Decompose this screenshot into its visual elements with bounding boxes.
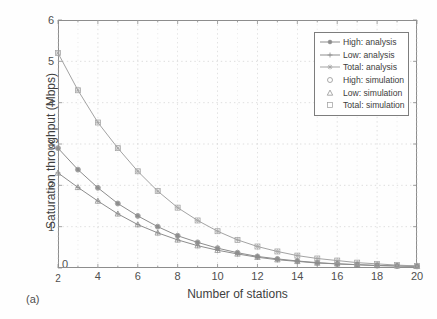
legend-label: High: simulation [343, 74, 404, 86]
legend-marker-plus-icon [317, 49, 343, 61]
legend-item: High: simulation [317, 74, 406, 87]
x-tick-label: 4 [95, 270, 101, 282]
legend-marker-open-circle-icon [317, 74, 343, 86]
x-tick-label: 10 [211, 270, 223, 282]
y-tick-label: 3 [48, 138, 54, 150]
y-tick-label: 4 [48, 97, 54, 109]
x-tick-label: 8 [175, 270, 181, 282]
legend-marker-filled-circle-icon [317, 36, 343, 48]
legend-marker-open-triangle-icon [317, 87, 343, 99]
subfigure-label: (a) [26, 293, 39, 305]
y-tick-label: 5 [48, 55, 54, 67]
x-tick-label: 20 [411, 270, 423, 282]
figure-panel-a: Saturation throughput (Mbps) 0123456 246… [0, 0, 437, 319]
y-tick-label: 6 [48, 14, 54, 26]
x-tick-label: 14 [291, 270, 303, 282]
legend-item: High: analysis [317, 36, 406, 49]
x-tick-label: 2 [55, 273, 61, 284]
legend-label: Low: analysis [343, 49, 395, 61]
legend-label: Low: simulation [343, 87, 402, 99]
legend-marker-star-icon [317, 61, 343, 73]
y-tick-label: 2 [48, 179, 54, 191]
x-tick-label: 18 [371, 270, 383, 282]
legend-item: Low: analysis [317, 49, 406, 62]
legend-item: Total: analysis [317, 61, 406, 74]
y-axis-title-wrap: Saturation throughput (Mbps) [14, 0, 30, 319]
legend-marker-open-square-icon [317, 99, 343, 111]
y-tick-label: 1 [48, 221, 54, 233]
legend-label: High: analysis [343, 36, 397, 48]
legend-item: Low: simulation [317, 86, 406, 99]
legend-item: Total: simulation [317, 99, 406, 112]
legend-label: Total: analysis [343, 61, 397, 73]
x-axis-title: Number of stations [58, 287, 417, 301]
y-axis-tick-labels: 0123456 [36, 0, 54, 319]
x-tick-label: 12 [251, 270, 263, 282]
chart-legend: High: analysisLow: analysisTotal: analys… [314, 32, 409, 116]
x-tick-label: 6 [135, 270, 141, 282]
x-tick-label: 16 [331, 270, 343, 282]
legend-label: Total: simulation [343, 99, 405, 111]
